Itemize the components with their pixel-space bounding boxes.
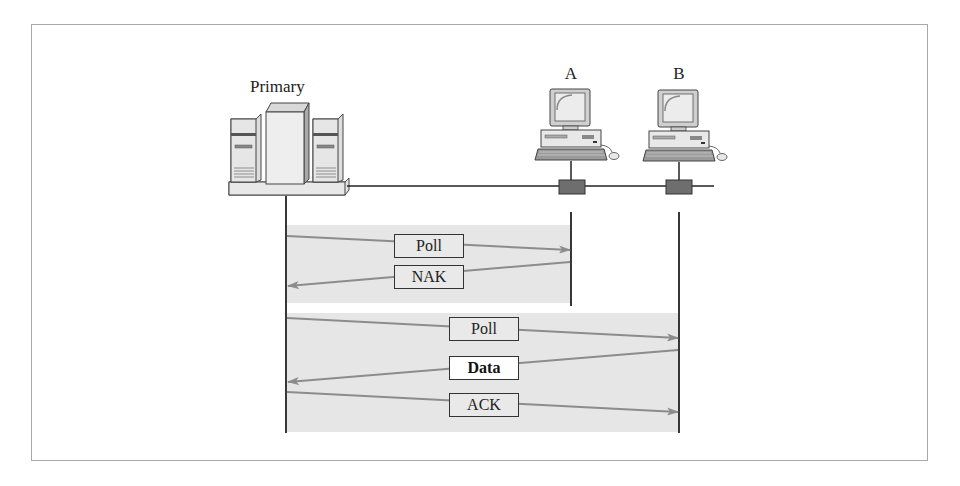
primary-server-icon (229, 103, 349, 195)
computer-b-icon (643, 90, 727, 180)
computer-a-icon (535, 89, 619, 180)
station-a-label: A (565, 65, 577, 82)
station-b-label: B (673, 65, 684, 82)
connector-b-icon (666, 180, 692, 194)
nak-message-box: NAK (394, 265, 464, 289)
data-message-box: Data (449, 356, 519, 380)
connector-a-icon (559, 180, 585, 194)
poll-a-message-box: Poll (394, 234, 464, 258)
ack-message-box: ACK (449, 393, 519, 417)
primary-label: Primary (250, 78, 305, 95)
poll-b-message-box: Poll (449, 317, 519, 341)
